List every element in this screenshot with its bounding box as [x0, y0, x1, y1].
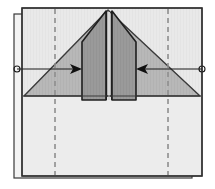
origami-fold-diagram: Paper folding diagram: fold both center …	[0, 0, 215, 189]
fold-diagram-canvas	[0, 0, 215, 189]
lower-flat-panel	[23, 96, 201, 175]
